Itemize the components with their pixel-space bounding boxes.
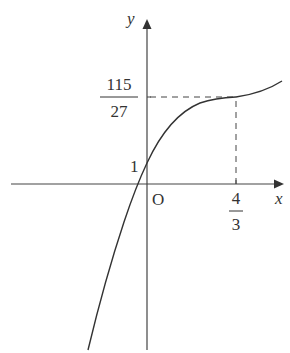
x-axis-label: x (274, 189, 283, 208)
function-graph-figure: y x O 1 115 27 4 3 (0, 0, 290, 353)
y-intercept-label: 1 (130, 157, 139, 176)
x-axis-arrow-icon (274, 180, 284, 189)
cubic-curve (88, 81, 282, 350)
y-axis-arrow-icon (143, 19, 152, 29)
x-mark-fraction: 4 3 (229, 189, 243, 234)
y-mark-numerator: 115 (107, 75, 132, 94)
x-mark-numerator: 4 (232, 189, 241, 208)
dashed-guides (147, 97, 236, 184)
x-mark-denominator: 3 (232, 215, 241, 234)
origin-label: O (152, 190, 164, 209)
y-mark-denominator: 27 (111, 102, 129, 121)
y-mark-fraction: 115 27 (100, 75, 138, 121)
y-axis-label: y (125, 9, 135, 28)
